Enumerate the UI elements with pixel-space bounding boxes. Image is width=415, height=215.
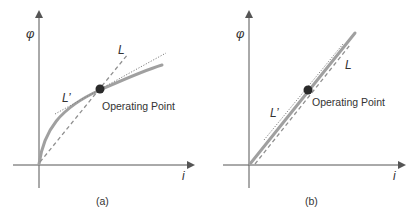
- panel-b: φ i L L’ Operating Point (b): [223, 12, 404, 207]
- y-axis-label: φ: [26, 26, 35, 41]
- operating-point-label: Operating Point: [102, 100, 175, 112]
- x-axis-label: i: [393, 169, 396, 183]
- secant-label: L: [118, 43, 125, 57]
- operating-point-marker: [304, 86, 313, 95]
- panel-caption: (a): [96, 195, 109, 207]
- operating-point-marker: [96, 85, 105, 94]
- tangent-label: L’: [62, 91, 71, 105]
- flux-current-diagram: φ i L L’ Operating Point (a) φ i L L’ Op…: [0, 0, 415, 215]
- operating-point-label: Operating Point: [312, 96, 385, 108]
- secant-label: L: [345, 58, 352, 72]
- panel-a: φ i L L’ Operating Point (a): [13, 12, 193, 207]
- y-axis-label: φ: [236, 26, 245, 41]
- tangent-label: L’: [270, 106, 279, 120]
- panel-caption: (b): [305, 195, 318, 207]
- tangent-line-L-prime: [264, 44, 343, 140]
- x-axis-label: i: [182, 169, 185, 183]
- flux-curve: [39, 65, 162, 164]
